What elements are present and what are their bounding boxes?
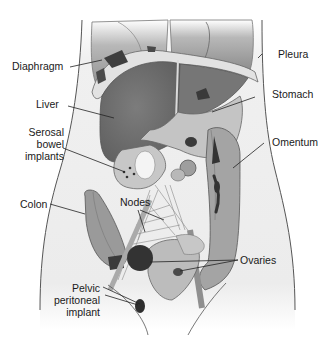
label-omentum: Omentum (272, 136, 318, 148)
pelvic-implant (135, 299, 145, 313)
ovary-mass (127, 245, 153, 271)
label-stomach: Stomach (272, 88, 313, 100)
label-nodes: Nodes (120, 196, 150, 208)
label-pelvic-peritoneal-implant: Pelvic peritoneal implant (48, 282, 100, 318)
label-serosal-bowel-implants: Serosal bowel implants (20, 126, 64, 162)
label-diaphragm: Diaphragm (12, 60, 63, 72)
label-ovaries: Ovaries (240, 254, 276, 266)
label-liver: Liver (36, 98, 59, 110)
label-colon: Colon (20, 198, 47, 210)
label-pleura: Pleura (278, 48, 308, 60)
ovary (173, 268, 183, 276)
